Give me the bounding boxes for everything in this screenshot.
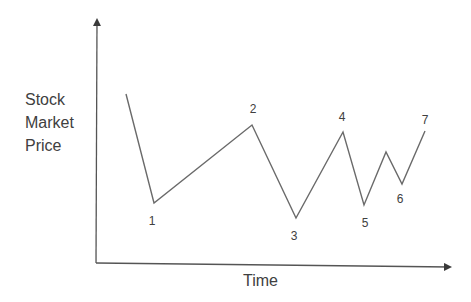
point-label-5: 5 [362,216,369,230]
point-label-3: 3 [291,229,298,243]
y-axis-label-line-2: Market [25,111,74,134]
y-axis-label: Stock Market Price [25,88,74,157]
x-axis-label: Time [243,272,278,290]
price-line [126,94,425,218]
point-label-4: 4 [339,110,346,124]
point-label-7: 7 [422,113,429,127]
y-axis-label-line-1: Stock [25,88,74,111]
y-axis-label-line-3: Price [25,134,74,157]
point-labels: 1234567 [149,102,429,243]
point-label-6: 6 [397,192,404,206]
point-label-2: 2 [250,102,257,116]
y-axis [96,20,97,263]
point-label-1: 1 [149,214,156,228]
x-axis [96,263,450,267]
